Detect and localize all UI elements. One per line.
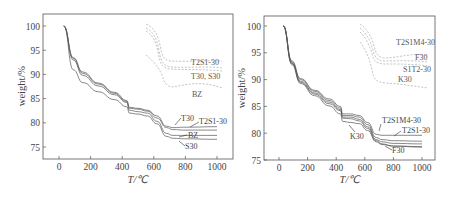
chart-right: 7580859095100 02004006008001000 weight/%… xyxy=(236,16,435,185)
x-tick-label: 800 xyxy=(386,163,401,173)
y-tick-label: 90 xyxy=(252,75,262,85)
x-tick-label: 600 xyxy=(358,163,373,173)
annotation-arrow xyxy=(379,124,381,131)
y-tick-label: 85 xyxy=(252,102,262,112)
annotation: T30, S30 xyxy=(191,72,220,81)
y-tick-label: 100 xyxy=(26,22,41,32)
y-tick-label: 85 xyxy=(31,94,41,104)
figure: 7580859095100 02004006008001000 weight/%… xyxy=(0,0,450,197)
x-tick-label: 1000 xyxy=(413,163,432,173)
y-tick-label: 75 xyxy=(252,156,262,166)
annotation-arrow xyxy=(349,125,355,132)
annotation: BZ xyxy=(192,90,202,99)
y-axis-label: weight/% xyxy=(16,66,27,106)
x-tick-label: 0 xyxy=(57,162,62,172)
annotation: F30 xyxy=(392,146,404,155)
annotation: S1T2-30 xyxy=(403,65,431,74)
y-tick-label: 80 xyxy=(31,118,41,128)
x-tick-label: 600 xyxy=(147,162,162,172)
x-axis-label: T/℃ xyxy=(340,174,362,185)
annotation: K30 xyxy=(398,75,412,84)
x-tick-label: 200 xyxy=(300,163,315,173)
annotation: BZ xyxy=(188,131,198,140)
plot-frame xyxy=(43,14,233,159)
series-line-s30 xyxy=(64,26,217,139)
annotation: T2S1-30 xyxy=(402,126,430,135)
x-axis-label: T/℃ xyxy=(128,174,150,185)
chart-left: 7580859095100 02004006008001000 weight/%… xyxy=(16,14,233,185)
x-tick-label: 1000 xyxy=(208,162,227,172)
y-tick-label: 95 xyxy=(252,48,262,58)
annotation: T2S1-30 xyxy=(199,117,227,126)
x-tick-label: 800 xyxy=(178,162,193,172)
y-axis-label: weight/% xyxy=(236,68,247,108)
y-tick-label: 90 xyxy=(31,70,41,80)
y-tick-label: 95 xyxy=(31,46,41,56)
annotation: F30 xyxy=(415,53,427,62)
annotation: T30 xyxy=(181,114,194,123)
annotation: S30 xyxy=(185,142,197,151)
y-tick-label: 75 xyxy=(31,143,41,153)
y-tick-label: 100 xyxy=(247,22,262,32)
annotation: T2S1M4-30 xyxy=(382,116,421,125)
annotation: T2S1-30 xyxy=(191,58,219,67)
annotation-arrow xyxy=(385,146,392,150)
annotation: K30 xyxy=(350,132,364,141)
y-tick-label: 80 xyxy=(252,129,262,139)
x-tick-label: 400 xyxy=(115,162,130,172)
x-tick-label: 0 xyxy=(277,163,282,173)
x-tick-label: 200 xyxy=(83,162,98,172)
x-tick-label: 400 xyxy=(329,163,344,173)
annotation: T2S1M4-30 xyxy=(396,38,435,47)
